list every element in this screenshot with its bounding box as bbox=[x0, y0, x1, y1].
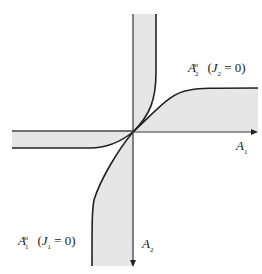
curve-label-a1-st: A1st (J1 = 0) bbox=[18, 233, 76, 251]
horizontal-band-left bbox=[12, 131, 133, 148]
axis-label-a1: A1 bbox=[236, 138, 247, 156]
curve-label-a2-st: A2st (J2 = 0) bbox=[188, 60, 246, 78]
axis-label-a2: A2 bbox=[142, 236, 153, 254]
vertical-band-lower bbox=[92, 132, 133, 266]
